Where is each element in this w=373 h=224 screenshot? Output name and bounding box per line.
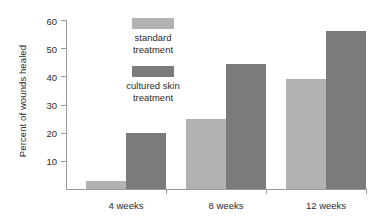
x-tick-sep-2 (266, 189, 267, 194)
legend-label-standard-line2: treatment (105, 44, 201, 56)
y-axis-title: Percent of wounds healed (14, 6, 32, 196)
legend-label-standard-line1: standard (105, 32, 201, 44)
y-tick-30: 30 (61, 105, 66, 106)
x-axis-spine (66, 189, 367, 190)
legend-swatch-standard-icon (132, 18, 174, 29)
y-tick-label-40: 40 (46, 71, 57, 82)
chart-legend: standard treatment cultured skin treatme… (105, 18, 201, 114)
legend-label-cultured-line1: cultured skin (105, 80, 201, 92)
bar-standard-12-weeks (286, 79, 326, 189)
bar-cultured-8-weeks (226, 64, 266, 189)
legend-swatch-cultured-icon (132, 66, 174, 77)
y-axis-spine (66, 20, 67, 189)
y-tick-label-20: 20 (46, 128, 57, 139)
y-tick-10: 10 (61, 161, 66, 162)
bar-cultured-12-weeks (326, 31, 366, 189)
legend-entry-cultured: cultured skin treatment (105, 66, 201, 104)
x-category-label-8-weeks: 8 weeks (209, 200, 244, 211)
x-tick-end (366, 189, 367, 194)
legend-entry-standard: standard treatment (105, 18, 201, 56)
y-tick-label-30: 30 (46, 100, 57, 111)
bar-cultured-4-weeks (126, 133, 166, 189)
y-tick-50: 50 (61, 48, 66, 49)
bar-standard-8-weeks (186, 119, 226, 189)
y-tick-label-10: 10 (46, 156, 57, 167)
x-category-label-4-weeks: 4 weeks (109, 200, 144, 211)
bar-standard-4-weeks (86, 181, 126, 189)
y-tick-60: 60 (61, 20, 66, 21)
x-tick-sep-1 (166, 189, 167, 194)
y-tick-label-50: 50 (46, 43, 57, 54)
y-tick-20: 20 (61, 133, 66, 134)
y-tick-40: 40 (61, 76, 66, 77)
bar-chart-figure: Percent of wounds healed 60 50 40 30 20 … (0, 0, 373, 224)
y-tick-label-60: 60 (46, 15, 57, 26)
legend-label-cultured-line2: treatment (105, 92, 201, 104)
x-category-label-12-weeks: 12 weeks (306, 200, 346, 211)
